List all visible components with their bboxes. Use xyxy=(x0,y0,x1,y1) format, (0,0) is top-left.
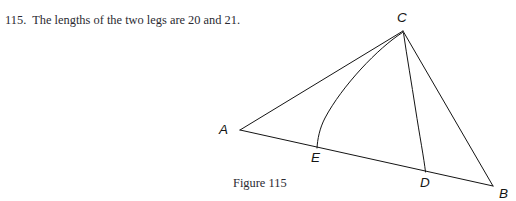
figure-caption: Figure 115 xyxy=(233,176,287,191)
arc-C-to-E xyxy=(317,33,403,149)
vertex-label-A: A xyxy=(218,122,228,137)
segment-side-CB xyxy=(403,31,493,186)
vertex-label-B: B xyxy=(499,186,508,201)
vertex-label-D: D xyxy=(420,175,430,190)
vertex-label-E: E xyxy=(311,150,321,165)
geometry-figure: A C B E D xyxy=(0,0,516,201)
figure-page: 115.The lengths of the two legs are 20 a… xyxy=(0,0,516,201)
segment-side-AC xyxy=(240,31,403,130)
vertex-label-C: C xyxy=(397,10,407,25)
arc-C-to-D xyxy=(404,33,426,172)
